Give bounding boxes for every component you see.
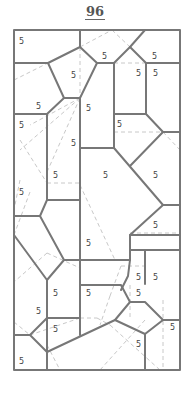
cell-label: 5 (36, 307, 41, 316)
cell-label: 5 (153, 221, 158, 230)
cell-label: 5 (86, 239, 91, 248)
puzzle-grid: 5 5 5 5 5 5 5 5 5 5 5 5 5 5 5 5 5 5 5 5 … (0, 0, 190, 393)
cell-labels: 5 5 5 5 5 5 5 5 5 5 5 5 5 5 5 5 5 5 5 5 … (19, 37, 175, 366)
cell-label: 5 (53, 171, 58, 180)
cell-label: 5 (53, 289, 58, 298)
cell-label: 5 (136, 69, 141, 78)
cell-label: 5 (153, 273, 158, 282)
cell-label: 5 (153, 69, 158, 78)
cell-label: 5 (136, 340, 141, 349)
dashed-guides (14, 30, 180, 370)
cell-label: 5 (19, 188, 24, 197)
cell-label: 5 (136, 289, 141, 298)
cell-label: 5 (153, 171, 158, 180)
cell-label: 5 (103, 171, 108, 180)
cell-label: 5 (86, 104, 91, 113)
cell-label: 5 (152, 52, 157, 61)
cell-label: 5 (71, 139, 76, 148)
cell-label: 5 (19, 357, 24, 366)
cell-label: 5 (36, 102, 41, 111)
cell-label: 5 (136, 273, 141, 282)
cell-label: 5 (170, 323, 175, 332)
cell-label: 5 (19, 121, 24, 130)
cell-label: 5 (117, 120, 122, 129)
cell-label: 5 (86, 289, 91, 298)
solid-edges (14, 30, 180, 370)
cell-label: 5 (102, 52, 107, 61)
cell-label: 5 (53, 325, 58, 334)
cell-label: 5 (19, 37, 24, 46)
cell-label: 5 (71, 71, 76, 80)
